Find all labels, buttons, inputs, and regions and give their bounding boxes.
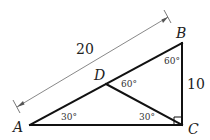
angle-label-a: 30°: [61, 112, 77, 122]
angle-label-c: 30°: [139, 112, 155, 122]
angle-label-b: 60°: [164, 56, 180, 66]
point-label-c: C: [188, 121, 199, 137]
angle-label-d: 60°: [121, 79, 137, 89]
triangle-abc: [30, 43, 182, 125]
point-label-a: A: [11, 119, 23, 135]
point-label-d: D: [93, 67, 105, 83]
geometry-diagram: A B C D 20 10 30° 60° 60° 30°: [0, 0, 210, 140]
length-label-bc: 10: [187, 76, 205, 92]
length-label-ab: 20: [76, 41, 94, 57]
point-label-b: B: [175, 25, 186, 41]
